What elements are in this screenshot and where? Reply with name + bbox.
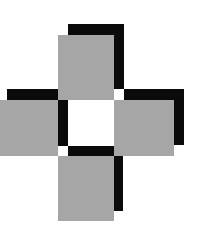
cross-figure xyxy=(0,0,202,232)
center-square xyxy=(68,100,114,146)
bottom-square xyxy=(58,156,114,221)
right-shadow-vertical xyxy=(174,89,184,145)
bottom-shadow-horizontal xyxy=(68,146,114,156)
bottom-shadow-vertical xyxy=(114,156,123,211)
top-square xyxy=(58,35,114,100)
left-square xyxy=(0,100,58,156)
left-shadow-horizontal xyxy=(7,89,58,100)
right-square xyxy=(114,100,174,156)
top-shadow-vertical xyxy=(114,24,124,89)
center-shadow-vertical xyxy=(58,100,68,146)
